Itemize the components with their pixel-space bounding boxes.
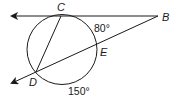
point-label-c: C <box>57 1 65 13</box>
geometry-diagram: C B E D 80° 150° <box>0 0 176 99</box>
point-label-b: B <box>162 11 169 23</box>
point-label-e: E <box>100 46 108 58</box>
circle <box>27 15 97 85</box>
arc-label-de: 150° <box>68 85 90 97</box>
secant-ray-bd <box>12 16 158 83</box>
point-label-d: D <box>29 76 37 88</box>
chord-cd <box>36 16 61 72</box>
arc-label-ce: 80° <box>94 22 110 34</box>
